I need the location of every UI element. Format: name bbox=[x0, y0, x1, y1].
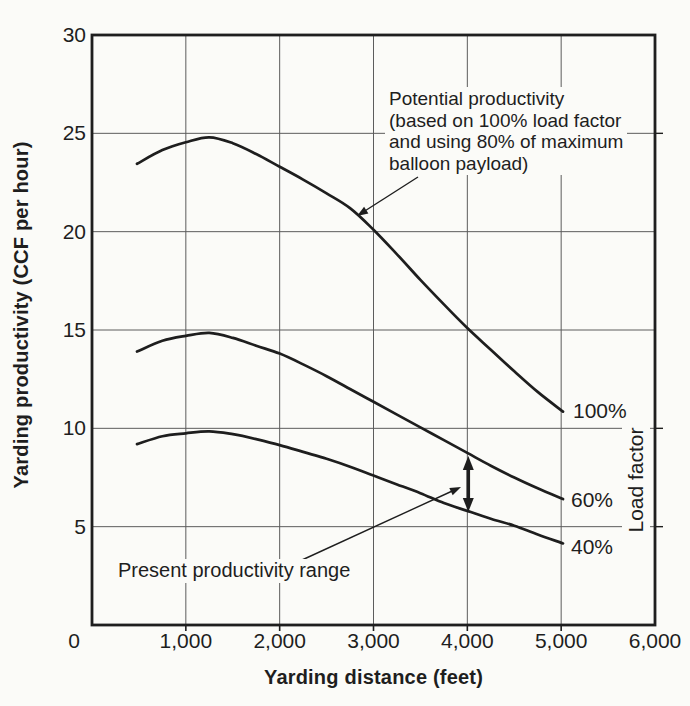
balloon-yarding-productivity-figure: Yarding productivity (CCF per hour) Yard… bbox=[0, 0, 690, 706]
x-tick-label-3000: 3,000 bbox=[334, 630, 414, 652]
right-axis-label-load-factor: Load factor bbox=[622, 422, 650, 537]
present-productivity-arrow bbox=[302, 490, 456, 560]
x-tick-label-6000: 6,000 bbox=[615, 630, 690, 652]
x-tick-label-0: 0 bbox=[34, 630, 114, 652]
potential-productivity-arrow-head bbox=[357, 207, 368, 216]
x-tick-label-4000: 4,000 bbox=[427, 630, 507, 652]
y-tick-label-15: 15 bbox=[34, 319, 86, 341]
curve-100-percent bbox=[137, 137, 563, 411]
x-tick-label-1000: 1,000 bbox=[146, 630, 226, 652]
x-axis-title: Yarding distance (feet) bbox=[92, 666, 655, 689]
y-tick-label-30: 30 bbox=[34, 24, 86, 46]
y-tick-label-20: 20 bbox=[34, 221, 86, 243]
x-tick-label-5000: 5,000 bbox=[521, 630, 601, 652]
y-axis-title: Yarding productivity (CCF per hour) bbox=[10, 141, 33, 488]
x-tick-label-2000: 2,000 bbox=[240, 630, 320, 652]
y-tick-label-5: 5 bbox=[34, 516, 86, 538]
annotation-potential-productivity: Potential productivity (based on 100% lo… bbox=[385, 87, 627, 175]
present-productivity-arrow-head bbox=[449, 487, 461, 495]
annotation-present-productivity-range: Present productivity range bbox=[114, 559, 354, 583]
curve-label-60-percent: 60% bbox=[569, 489, 615, 511]
y-tick-label-25: 25 bbox=[34, 122, 86, 144]
curve-label-100-percent: 100% bbox=[571, 400, 629, 422]
y-tick-label-10: 10 bbox=[34, 417, 86, 439]
productivity-range-arrow-up-head bbox=[463, 456, 474, 470]
potential-productivity-arrow bbox=[362, 177, 418, 213]
curve-label-40-percent: 40% bbox=[569, 536, 615, 558]
